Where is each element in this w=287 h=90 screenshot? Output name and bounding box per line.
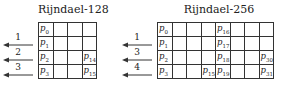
- grid-cell: [53, 37, 68, 51]
- shift-label: 3: [3, 62, 33, 72]
- grid-cell: [187, 37, 202, 51]
- grid-cell: p0: [39, 23, 54, 37]
- grid-cell: p18: [216, 51, 231, 65]
- shift-arrow-row-3: 4: [122, 63, 152, 79]
- cell-subscript: 19: [222, 71, 229, 77]
- grid-cell: p17: [216, 37, 231, 51]
- left-arrow-icon: [3, 72, 33, 78]
- shift-label: 4: [122, 62, 152, 72]
- state-grid: p0p1p2p14p3p15: [38, 22, 97, 79]
- grid-cell: p2: [39, 51, 54, 65]
- grid-cell: [230, 37, 245, 51]
- grid-row: p1p17: [158, 37, 274, 51]
- grid-cell: [82, 37, 97, 51]
- cell-subscript: 2: [164, 57, 168, 63]
- grid-row: p0p16: [158, 23, 274, 37]
- cell-subscript: 18: [222, 57, 229, 63]
- grid-cell: [230, 23, 245, 37]
- cell-subscript: 0: [45, 29, 49, 35]
- cell-subscript: 1: [164, 43, 168, 49]
- grid-row: p3p15p19p31: [158, 65, 274, 79]
- cell-subscript: 15: [89, 71, 96, 77]
- shift-label: 3: [122, 47, 152, 57]
- shift-label: 1: [3, 32, 33, 42]
- grid-cell: [68, 65, 83, 79]
- grid-cell: [172, 37, 187, 51]
- cell-subscript: 0: [164, 29, 168, 35]
- cell-subscript: 16: [222, 29, 229, 35]
- grid-cell: p2: [158, 51, 173, 65]
- grid-cell: [53, 51, 68, 65]
- diagram-title: Rijndael-256: [157, 3, 281, 16]
- cell-subscript: 15: [208, 71, 215, 77]
- grid-cell: [53, 23, 68, 37]
- cell-subscript: 2: [45, 57, 49, 63]
- grid-row: p0: [39, 23, 97, 37]
- grid-cell: p15: [201, 65, 216, 79]
- shift-arrow-row-3: 3: [3, 63, 33, 79]
- grid-cell: p19: [216, 65, 231, 79]
- grid-cell: p15: [82, 65, 97, 79]
- grid-cell: [172, 51, 187, 65]
- grid-cell: [82, 23, 97, 37]
- cell-subscript: 17: [222, 43, 229, 49]
- grid-row: p2p14: [39, 51, 97, 65]
- grid-cell: p16: [216, 23, 231, 37]
- grid-cell: p3: [39, 65, 54, 79]
- state-grid: p0p16p1p17p2p18p30p3p15p19p31: [157, 22, 274, 79]
- grid-cell: [245, 51, 260, 65]
- left-arrow-icon: [122, 72, 152, 78]
- grid-cell: p1: [39, 37, 54, 51]
- grid-cell: [230, 65, 245, 79]
- shift-label: 2: [3, 47, 33, 57]
- grid-cell: p31: [259, 65, 274, 79]
- grid-cell: p3: [158, 65, 173, 79]
- grid-row: p3p15: [39, 65, 97, 79]
- grid-cell: [245, 65, 260, 79]
- grid-cell: [68, 51, 83, 65]
- cell-subscript: 14: [89, 57, 96, 63]
- grid-cell: [187, 51, 202, 65]
- cell-subscript: 31: [266, 71, 273, 77]
- cell-subscript: 3: [45, 71, 49, 77]
- grid-cell: [201, 37, 216, 51]
- grid-cell: [53, 65, 68, 79]
- grid-cell: [187, 23, 202, 37]
- grid-cell: [245, 23, 260, 37]
- shift-label: 1: [122, 32, 152, 42]
- grid-row: p2p18p30: [158, 51, 274, 65]
- grid-cell: [245, 37, 260, 51]
- cell-subscript: 30: [266, 57, 273, 63]
- grid-cell: [230, 51, 245, 65]
- grid-cell: [201, 23, 216, 37]
- grid-cell: [259, 23, 274, 37]
- grid-cell: p1: [158, 37, 173, 51]
- grid-cell: p14: [82, 51, 97, 65]
- cell-subscript: 1: [45, 43, 49, 49]
- grid-row: p1: [39, 37, 97, 51]
- diagram-title: Rijndael-128: [38, 3, 100, 16]
- cell-subscript: 3: [164, 71, 168, 77]
- grid-cell: [172, 65, 187, 79]
- grid-cell: [259, 37, 274, 51]
- grid-cell: [68, 37, 83, 51]
- grid-cell: p30: [259, 51, 274, 65]
- grid-cell: p0: [158, 23, 173, 37]
- grid-cell: [201, 51, 216, 65]
- grid-cell: [187, 65, 202, 79]
- grid-cell: [172, 23, 187, 37]
- grid-cell: [68, 23, 83, 37]
